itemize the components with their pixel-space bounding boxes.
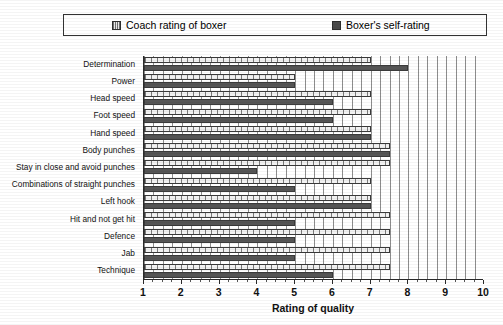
- bar-coach: [144, 126, 371, 132]
- bar-group: [144, 194, 483, 211]
- x-tick-minor: [247, 280, 248, 282]
- bar-coach: [144, 229, 390, 235]
- bar-rows: [144, 56, 483, 279]
- bar-self: [144, 168, 257, 174]
- bar-group: [144, 73, 483, 90]
- y-axis-label: Defence: [104, 232, 135, 241]
- x-tick-label: 6: [329, 286, 335, 298]
- y-axis-label: Hit and not get hit: [70, 215, 135, 224]
- bar-group: [144, 228, 483, 245]
- y-axis-label: Combinations of straight punches: [12, 180, 135, 189]
- legend-item-coach: Coach rating of boxer: [112, 15, 226, 35]
- bar-coach: [144, 195, 371, 201]
- x-tick-minor: [152, 280, 153, 282]
- x-tick: [407, 280, 408, 284]
- x-axis-title: Rating of quality: [143, 302, 483, 314]
- x-tick-label: 8: [405, 286, 411, 298]
- bar-group: [144, 90, 483, 107]
- x-tick-minor: [162, 280, 163, 282]
- chart-page: Coach rating of boxer Boxer's self-ratin…: [0, 0, 503, 325]
- bar-coach: [144, 91, 371, 97]
- x-tick-minor: [200, 280, 201, 282]
- bar-self: [144, 186, 295, 192]
- y-axis-label: Determination: [83, 60, 135, 69]
- x-tick-minor: [379, 280, 380, 282]
- y-axis-label: Hand speed: [90, 129, 135, 138]
- x-tick-label: 3: [216, 286, 222, 298]
- x-tick-minor: [436, 280, 437, 282]
- y-axis-labels: DeterminationPowerHead speedFoot speedHa…: [0, 56, 139, 280]
- x-tick-minor: [417, 280, 418, 282]
- legend-label-coach: Coach rating of boxer: [126, 19, 226, 31]
- bar-group: [144, 177, 483, 194]
- y-axis-label: Foot speed: [93, 111, 135, 120]
- x-tick: [294, 280, 295, 284]
- legend-swatch-coach-icon: [112, 21, 121, 30]
- x-tick-minor: [455, 280, 456, 282]
- bar-self: [144, 117, 333, 123]
- x-tick-minor: [351, 280, 352, 282]
- bar-self: [144, 99, 333, 105]
- x-tick-minor: [285, 280, 286, 282]
- bar-coach: [144, 143, 390, 149]
- bar-coach: [144, 178, 371, 184]
- bar-self: [144, 237, 295, 243]
- bar-coach: [144, 109, 371, 115]
- bar-self: [144, 255, 295, 261]
- x-tick: [483, 280, 484, 284]
- x-tick-minor: [464, 280, 465, 282]
- bar-group: [144, 142, 483, 159]
- bar-group: [144, 263, 483, 280]
- bar-group: [144, 211, 483, 228]
- x-tick-minor: [398, 280, 399, 282]
- x-tick-minor: [474, 280, 475, 282]
- bar-group: [144, 56, 483, 73]
- bar-self: [144, 151, 390, 157]
- x-axis-tick-labels: 12345678910: [143, 286, 483, 300]
- y-axis-label: Left hook: [101, 197, 135, 206]
- bar-coach: [144, 160, 390, 166]
- x-tick-minor: [304, 280, 305, 282]
- x-tick-minor: [313, 280, 314, 282]
- bar-self: [144, 203, 371, 209]
- x-tick-label: 7: [367, 286, 373, 298]
- bar-self: [144, 82, 295, 88]
- x-tick-label: 9: [442, 286, 448, 298]
- legend-item-self: Boxer's self-rating: [332, 15, 430, 35]
- x-tick-label: 5: [291, 286, 297, 298]
- bar-self: [144, 220, 295, 226]
- bar-coach: [144, 264, 390, 270]
- bar-coach: [144, 247, 390, 253]
- x-tick-minor: [341, 280, 342, 282]
- chart-legend: Coach rating of boxer Boxer's self-ratin…: [63, 14, 487, 36]
- x-tick-minor: [275, 280, 276, 282]
- x-tick-label: 4: [253, 286, 259, 298]
- y-axis-label: Jab: [122, 249, 135, 258]
- y-axis-label: Power: [111, 77, 135, 86]
- legend-swatch-self-icon: [332, 21, 341, 30]
- bar-coach: [144, 74, 295, 80]
- x-tick: [256, 280, 257, 284]
- x-tick: [219, 280, 220, 284]
- x-axis-ticks: [143, 280, 483, 285]
- x-tick-minor: [237, 280, 238, 282]
- y-axis-label: Head speed: [90, 94, 135, 103]
- x-tick-minor: [389, 280, 390, 282]
- x-tick: [181, 280, 182, 284]
- x-tick-label: 2: [178, 286, 184, 298]
- x-tick-minor: [171, 280, 172, 282]
- x-tick-label: 1: [140, 286, 146, 298]
- bar-group: [144, 159, 483, 176]
- y-axis-label: Technique: [97, 266, 135, 275]
- bar-group: [144, 246, 483, 263]
- y-axis-label: Body punches: [82, 146, 135, 155]
- x-tick: [445, 280, 446, 284]
- x-tick: [143, 280, 144, 284]
- x-tick: [370, 280, 371, 284]
- x-tick: [332, 280, 333, 284]
- bar-coach: [144, 57, 371, 63]
- legend-label-self: Boxer's self-rating: [346, 19, 430, 31]
- bar-group: [144, 108, 483, 125]
- bar-self: [144, 272, 333, 278]
- x-tick-minor: [190, 280, 191, 282]
